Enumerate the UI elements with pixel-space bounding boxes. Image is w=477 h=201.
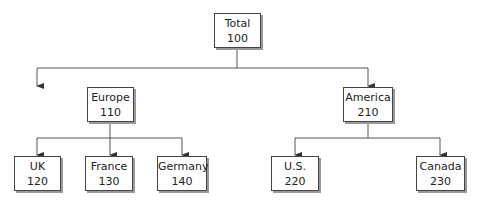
node-label: Germany	[158, 159, 206, 174]
node-france: France 130	[85, 156, 133, 191]
node-value: 120	[15, 174, 60, 189]
node-value: 210	[344, 105, 392, 120]
node-germany: Germany 140	[157, 156, 207, 191]
node-uk: UK 120	[14, 156, 61, 191]
node-total: Total 100	[214, 13, 261, 48]
node-canada: Canada 230	[416, 156, 465, 191]
node-label: Canada	[417, 159, 464, 174]
node-label: U.S.	[272, 159, 318, 174]
node-label: Total	[215, 16, 260, 31]
node-value: 140	[158, 174, 206, 189]
node-label: France	[86, 159, 132, 174]
node-value: 220	[272, 174, 318, 189]
node-label: UK	[15, 159, 60, 174]
node-value: 130	[86, 174, 132, 189]
node-label: Europe	[88, 90, 133, 105]
node-us: U.S. 220	[271, 156, 319, 191]
node-value: 100	[215, 31, 260, 46]
node-label: America	[344, 90, 392, 105]
node-america: America 210	[343, 87, 393, 122]
node-value: 230	[417, 174, 464, 189]
node-value: 110	[88, 105, 133, 120]
node-europe: Europe 110	[87, 87, 134, 122]
